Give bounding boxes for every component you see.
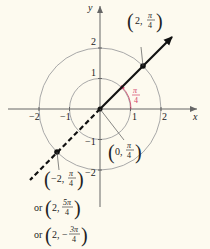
- label-alt-1: or ( 2, 5π 4 ): [34, 197, 81, 220]
- svg-text:4: 4: [127, 151, 131, 160]
- leader-point-a: [141, 47, 143, 66]
- svg-text:2,: 2,: [135, 15, 143, 26]
- svg-text:or: or: [34, 229, 43, 240]
- svg-text:): ): [77, 168, 84, 191]
- svg-text:(: (: [45, 224, 52, 247]
- angle-denominator: 4: [134, 96, 138, 105]
- svg-text:): ): [135, 141, 142, 164]
- svg-text:(: (: [127, 10, 134, 33]
- svg-text:0,: 0,: [115, 146, 123, 157]
- label-alt-2: or ( 2, − 3π 4 ): [34, 224, 88, 247]
- svg-text:2,: 2,: [52, 202, 60, 213]
- label-point-a: ( 2, π 4 ): [127, 10, 163, 33]
- svg-text:4: 4: [148, 21, 152, 30]
- x-tick-1: 1: [132, 111, 137, 122]
- y-tick-2: 2: [91, 36, 96, 47]
- svg-text:2, −: 2, −: [52, 229, 68, 240]
- x-tick-2: 2: [162, 111, 167, 122]
- svg-text:π: π: [69, 169, 74, 178]
- x-axis-label: x: [192, 111, 198, 122]
- svg-text:): ): [74, 197, 81, 220]
- svg-text:4: 4: [65, 208, 69, 217]
- svg-text:−2,: −2,: [51, 173, 64, 184]
- y-tick-neg1: −1: [85, 136, 96, 147]
- svg-text:or: or: [34, 202, 43, 213]
- svg-text:): ): [156, 10, 163, 33]
- svg-text:4: 4: [69, 179, 73, 188]
- y-axis-label: y: [87, 2, 93, 13]
- svg-text:3π: 3π: [69, 225, 79, 234]
- x-tick-neg2: −2: [29, 111, 40, 122]
- polar-diagram: y x −2 −1 1 2 2 1 −1 −2 π 4 ( 2, π 4 ) (…: [0, 0, 210, 249]
- svg-text:4: 4: [72, 235, 76, 244]
- svg-text:): ): [81, 224, 88, 247]
- angle-arc: [122, 87, 131, 109]
- label-origin: ( 0, π 4 ): [108, 141, 142, 164]
- svg-text:(: (: [108, 141, 115, 164]
- svg-text:5π: 5π: [63, 198, 72, 207]
- leader-point-b: [57, 152, 59, 170]
- leader-origin: [100, 109, 124, 140]
- svg-text:(: (: [45, 197, 52, 220]
- svg-text:(: (: [44, 168, 51, 191]
- x-tick-neg1: −1: [60, 111, 71, 122]
- y-tick-neg2: −2: [85, 167, 96, 178]
- svg-text:π: π: [127, 141, 132, 150]
- y-tick-1: 1: [91, 67, 96, 78]
- angle-numerator: π: [133, 86, 138, 95]
- svg-text:π: π: [148, 11, 153, 20]
- label-point-b: ( −2, π 4 ): [44, 168, 84, 191]
